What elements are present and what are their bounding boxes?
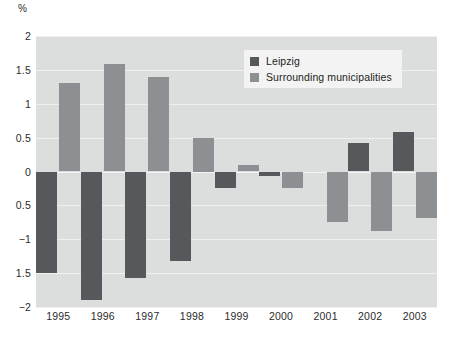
bar-surrounding-1999 [238, 165, 259, 172]
bar-leipzig-2000 [259, 172, 280, 177]
y-axis-tick-label: 0 [25, 166, 31, 178]
bar-surrounding-2003 [416, 172, 437, 218]
x-axis-tick-label: 2002 [358, 310, 382, 322]
x-axis-tick-label: 1997 [135, 310, 159, 322]
y-axis-tick-label: 1 [25, 98, 31, 110]
bar-surrounding-1995 [59, 83, 80, 171]
y-axis-tick-label: 0.5 [16, 199, 31, 211]
chart-container: % 21.510.500.5−11.5−2 199519961997199819… [0, 0, 463, 337]
bar-leipzig-1998 [170, 172, 191, 261]
bar-surrounding-1997 [148, 77, 169, 172]
x-axis-tick-label: 1995 [46, 310, 70, 322]
x-axis-tick-label: 2001 [314, 310, 338, 322]
bar-leipzig-1995 [36, 172, 57, 274]
y-axis-tick-label: 0.5 [16, 132, 31, 144]
y-axis-tick-label: 1.5 [16, 64, 31, 76]
gridline [36, 307, 437, 308]
y-axis-tick-label: 1.5 [16, 267, 31, 279]
bar-leipzig-2003 [393, 132, 414, 171]
bar-leipzig-1996 [81, 172, 102, 301]
x-axis-tick-label: 1999 [224, 310, 248, 322]
bar-leipzig-1997 [125, 172, 146, 278]
legend-item: Surrounding municipalities [250, 71, 392, 83]
legend-item: Leipzig [250, 55, 392, 67]
y-axis-tick-label: 2 [25, 30, 31, 42]
y-axis-tick-labels: 21.510.500.5−11.5−2 [0, 0, 31, 337]
gridline [36, 138, 437, 139]
x-axis-tick-label: 1998 [180, 310, 204, 322]
legend-swatch-surrounding [250, 73, 259, 82]
x-axis-tick-label: 2000 [269, 310, 293, 322]
gridline [36, 36, 437, 37]
x-axis-tick-labels: 199519961997199819992000200120022003 [36, 310, 437, 334]
legend-label: Leipzig [266, 55, 300, 67]
legend-label: Surrounding municipalities [266, 71, 392, 83]
legend-swatch-leipzig [250, 57, 259, 66]
gridline [36, 104, 437, 105]
bar-surrounding-2000 [282, 172, 303, 189]
bar-leipzig-2002 [348, 143, 369, 171]
bar-surrounding-2002 [371, 172, 392, 232]
y-axis-tick-label: −2 [19, 301, 31, 313]
y-axis-tick-label: −1 [19, 233, 31, 245]
bar-leipzig-1999 [215, 172, 236, 189]
bar-surrounding-1998 [193, 138, 214, 172]
bar-surrounding-1996 [104, 64, 125, 171]
x-axis-tick-label: 2003 [403, 310, 427, 322]
bar-surrounding-2001 [327, 172, 348, 223]
x-axis-tick-label: 1996 [91, 310, 115, 322]
chart-legend: LeipzigSurrounding municipalities [244, 50, 402, 88]
